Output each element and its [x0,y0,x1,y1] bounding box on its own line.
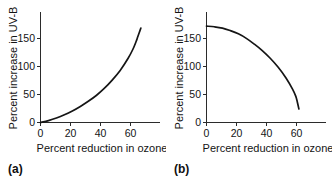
x-axis-title-b: Percent reduction in ozone [203,142,332,154]
x-axis-title-a: Percent reduction in ozone [37,142,166,154]
figure-container: 0 50 100 150 0 20 40 60 Percent reductio… [0,0,332,181]
x-tick-label-b-60: 60 [291,127,303,139]
chart-panel-a: 0 50 100 150 0 20 40 60 Percent reductio… [0,0,166,181]
x-tick-label-b-40: 40 [261,127,273,139]
y-ticks-a [37,39,41,123]
panel-tag-a: (a) [8,162,23,176]
y-tick-label-a-150: 150 [17,32,35,44]
x-tick-label-a-60: 60 [125,127,137,139]
y-tick-label-b-150: 150 [183,32,201,44]
data-curve-b [207,26,299,109]
y-tick-label-a-50: 50 [23,88,35,100]
chart-panel-b: 0 50 100 150 0 20 40 60 Percent reductio… [166,0,332,181]
x-tick-label-b-0: 0 [204,127,210,139]
y-axis-title-a: Percent increase in UV-B [7,7,19,130]
x-ticks-b [207,123,297,127]
x-tick-label-a-40: 40 [95,127,107,139]
y-tick-label-a-0: 0 [29,116,35,128]
y-axis-title-b: Percent increase in UV-B [173,7,185,130]
y-tick-label-a-100: 100 [17,60,35,72]
plot-svg-a: 0 50 100 150 0 20 40 60 Percent reductio… [0,0,166,181]
y-tick-label-b-100: 100 [183,60,201,72]
y-tick-label-b-0: 0 [195,116,201,128]
x-ticks-a [41,123,131,127]
panel-tag-b: (b) [174,162,189,176]
data-curve-a [41,28,141,122]
y-tick-label-b-50: 50 [189,88,201,100]
y-ticks-b [203,39,207,123]
plot-svg-b: 0 50 100 150 0 20 40 60 Percent reductio… [166,0,332,181]
x-tick-label-a-20: 20 [65,127,77,139]
x-tick-label-a-0: 0 [38,127,44,139]
x-tick-label-b-20: 20 [231,127,243,139]
